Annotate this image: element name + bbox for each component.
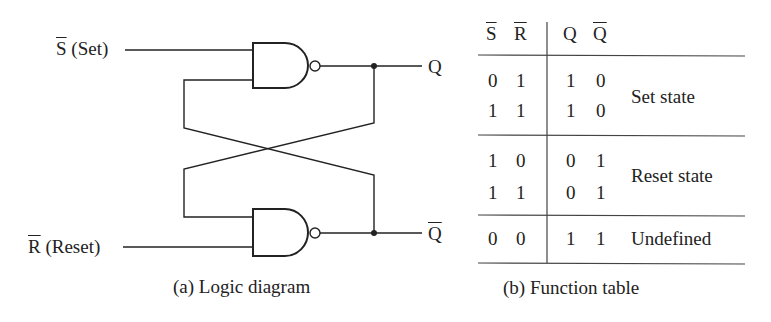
cell: 0 [596, 71, 606, 90]
nand-gate-top [253, 43, 308, 88]
cell: 1 [488, 151, 498, 170]
state-label-set: Set state [631, 87, 695, 106]
cell: 1 [488, 101, 498, 120]
cell: 0 [488, 229, 498, 248]
header-s-bar: S [486, 24, 497, 43]
cell: 1 [566, 71, 576, 90]
cell: 1 [566, 101, 576, 120]
caption-function-table: (b) Function table [503, 278, 639, 297]
cell: 0 [516, 229, 526, 248]
cell: 1 [488, 183, 498, 202]
cell: 1 [516, 71, 526, 90]
state-label-undefined: Undefined [631, 229, 711, 248]
cell: 1 [596, 151, 606, 170]
header-r-bar: R [514, 24, 527, 43]
cell: 0 [566, 151, 576, 170]
cell: 0 [596, 101, 606, 120]
cell: 1 [596, 183, 606, 202]
header-q-bar: Q [593, 24, 607, 43]
logic-diagram-wires [0, 0, 771, 322]
junction-dot-q [371, 63, 377, 69]
cell: 0 [516, 151, 526, 170]
inversion-bubble-bottom [310, 228, 320, 238]
input-label-reset: R (Reset) [28, 237, 100, 256]
nand-gate-bottom [253, 209, 308, 256]
cell: 0 [566, 183, 576, 202]
output-label-qbar: Q [428, 224, 442, 243]
input-label-set: S (Set) [56, 39, 108, 58]
cell: 1 [596, 229, 606, 248]
output-label-q: Q [428, 57, 442, 76]
cell: 1 [516, 183, 526, 202]
caption-logic-diagram: (a) Logic diagram [173, 277, 310, 296]
state-label-reset: Reset state [631, 166, 713, 185]
cell: 1 [566, 229, 576, 248]
inversion-bubble-top [310, 61, 320, 71]
cell: 0 [488, 71, 498, 90]
header-q: Q [563, 24, 577, 43]
cell: 1 [516, 101, 526, 120]
junction-dot-qbar [371, 230, 377, 236]
